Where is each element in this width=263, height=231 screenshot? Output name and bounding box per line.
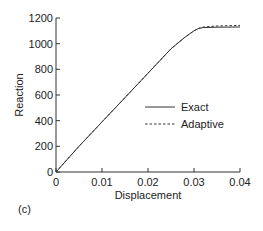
x-tick-label: 0.04 (229, 176, 250, 188)
x-tick-label: 0.02 (137, 176, 158, 188)
panel-label: (c) (18, 203, 31, 215)
y-tick-label: 800 (35, 63, 53, 75)
y-axis-label: Reaction (13, 73, 25, 116)
y-tick-label: 400 (35, 115, 53, 127)
legend-label-adaptive: Adaptive (181, 118, 224, 130)
y-tick-label: 1200 (29, 12, 53, 24)
series-line-adaptive (56, 25, 240, 172)
x-axis-label: Displacement (115, 189, 182, 201)
series-line-exact (56, 27, 240, 172)
legend-label-exact: Exact (181, 101, 209, 113)
chart-container: 02004006008001000120000.010.020.030.04Di… (0, 0, 263, 231)
x-tick-label: 0.01 (91, 176, 112, 188)
y-tick-label: 600 (35, 89, 53, 101)
line-chart: 02004006008001000120000.010.020.030.04Di… (0, 0, 263, 231)
y-tick-label: 1000 (29, 38, 53, 50)
x-tick-label: 0.03 (183, 176, 204, 188)
x-tick-label: 0 (53, 176, 59, 188)
y-tick-label: 200 (35, 140, 53, 152)
